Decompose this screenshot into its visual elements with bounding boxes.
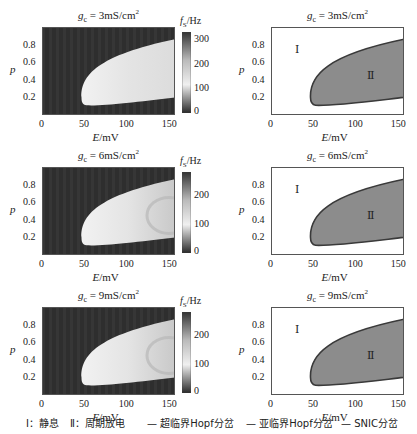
y-tick: 0.4 (252, 75, 265, 85)
x-tick: 100 (348, 399, 363, 409)
heatmap-plot (42, 167, 175, 255)
x-tick: 150 (391, 259, 406, 269)
bifurcation-plot (271, 307, 404, 395)
y-axis-label: p (10, 343, 16, 355)
x-tick: 0 (268, 399, 273, 409)
colorbar (182, 172, 191, 253)
x-tick: 0 (39, 399, 44, 409)
colorbar-tick: 100 (194, 359, 209, 369)
x-tick: 150 (162, 259, 177, 269)
x-tick: 150 (162, 399, 177, 409)
bifurcation-plot (271, 27, 404, 115)
figure-row-2: gc = 6mS/cm20.20.40.60.8050100150pE/mVfS… (0, 140, 417, 280)
x-tick: 100 (119, 259, 134, 269)
heatmap-plot (42, 27, 175, 115)
y-axis-label: p (239, 203, 245, 215)
x-tick: 100 (119, 119, 134, 129)
y-tick: 0.4 (23, 215, 36, 225)
x-tick: 100 (348, 119, 363, 129)
colorbar-tick: 100 (194, 219, 209, 229)
y-axis-label: p (239, 63, 245, 75)
y-tick: 0.6 (252, 337, 265, 347)
region-1-label: Ⅰ (295, 43, 299, 56)
y-tick: 0.8 (23, 180, 36, 190)
y-tick: 0.8 (252, 320, 265, 330)
legend-supercritical-hopf: — 超临界Hopf分岔 (147, 415, 234, 430)
y-tick: 0.8 (252, 180, 265, 190)
y-tick: 0.4 (252, 355, 265, 365)
x-tick: 50 (79, 399, 89, 409)
colorbar-tick: 300 (194, 34, 209, 44)
y-tick: 0.4 (23, 75, 36, 85)
panel-title: gc = 9mS/cm2 (271, 288, 404, 304)
x-tick: 50 (308, 119, 318, 129)
y-tick: 0.2 (252, 372, 265, 382)
x-tick: 50 (79, 259, 89, 269)
figure-row-1: gc = 3mS/cm20.20.40.60.8050100150pE/mVfS… (0, 0, 417, 140)
region-1-label: Ⅰ (295, 183, 299, 196)
y-tick: 0.8 (23, 320, 36, 330)
bifurcation-plot (271, 167, 404, 255)
y-axis-label: p (239, 343, 245, 355)
y-tick: 0.2 (23, 92, 36, 102)
colorbar-label: fS/Hz (180, 155, 201, 169)
x-tick: 50 (79, 119, 89, 129)
x-tick: 50 (308, 259, 318, 269)
x-tick: 50 (308, 399, 318, 409)
legend-region-1: Ⅰ：静息 (26, 415, 59, 430)
x-tick: 100 (119, 399, 134, 409)
region-2-label: Ⅱ (367, 349, 374, 362)
x-tick: 150 (391, 399, 406, 409)
heatmap-plot (42, 307, 175, 395)
colorbar-tick: 200 (194, 190, 209, 200)
panel-title: gc = 6mS/cm2 (271, 148, 404, 164)
x-tick: 0 (268, 259, 273, 269)
y-tick: 0.8 (252, 40, 265, 50)
x-tick: 0 (39, 259, 44, 269)
colorbar-label: fS/Hz (180, 295, 201, 309)
y-tick: 0.6 (23, 57, 36, 67)
y-tick: 0.4 (23, 355, 36, 365)
legend: Ⅰ：静息 Ⅱ：周期放电 — 超临界Hopf分岔 — 亚临界Hopf分岔 — SN… (0, 412, 417, 430)
colorbar-tick: 200 (194, 59, 209, 69)
colorbar-tick: 200 (194, 330, 209, 340)
y-tick: 0.6 (23, 197, 36, 207)
y-tick: 0.6 (252, 197, 265, 207)
colorbar (182, 312, 191, 393)
legend-snic: — SNIC分岔 (341, 415, 398, 430)
y-tick: 0.2 (252, 232, 265, 242)
colorbar-label: fS/Hz (180, 15, 201, 29)
panel-title: gc = 3mS/cm2 (42, 8, 175, 24)
y-axis-label: p (10, 63, 16, 75)
x-tick: 100 (348, 259, 363, 269)
colorbar-tick: 100 (194, 83, 209, 93)
region-2-label: Ⅱ (367, 69, 374, 82)
legend-region-2: Ⅱ：周期放电 (70, 415, 125, 430)
colorbar (182, 32, 191, 113)
colorbar-tick: 0 (194, 386, 199, 396)
panel-title: gc = 6mS/cm2 (42, 148, 175, 164)
x-tick: 150 (162, 119, 177, 129)
x-tick: 150 (391, 119, 406, 129)
y-tick: 0.6 (23, 337, 36, 347)
region-2-label: Ⅱ (367, 209, 374, 222)
y-tick: 0.4 (252, 215, 265, 225)
panel-title: gc = 9mS/cm2 (42, 288, 175, 304)
colorbar-tick: 0 (194, 106, 199, 116)
x-tick: 0 (39, 119, 44, 129)
region-1-label: Ⅰ (295, 323, 299, 336)
y-tick: 0.2 (23, 372, 36, 382)
y-tick: 0.2 (23, 232, 36, 242)
colorbar-tick: 0 (194, 246, 199, 256)
panel-title: gc = 3mS/cm2 (271, 8, 404, 24)
y-tick: 0.8 (23, 40, 36, 50)
y-tick: 0.2 (252, 92, 265, 102)
y-tick: 0.6 (252, 57, 265, 67)
x-tick: 0 (268, 119, 273, 129)
legend-subcritical-hopf: — 亚临界Hopf分岔 (246, 415, 333, 430)
figure-row-3: gc = 9mS/cm20.20.40.60.8050100150pE/mVfS… (0, 280, 417, 420)
y-axis-label: p (10, 203, 16, 215)
